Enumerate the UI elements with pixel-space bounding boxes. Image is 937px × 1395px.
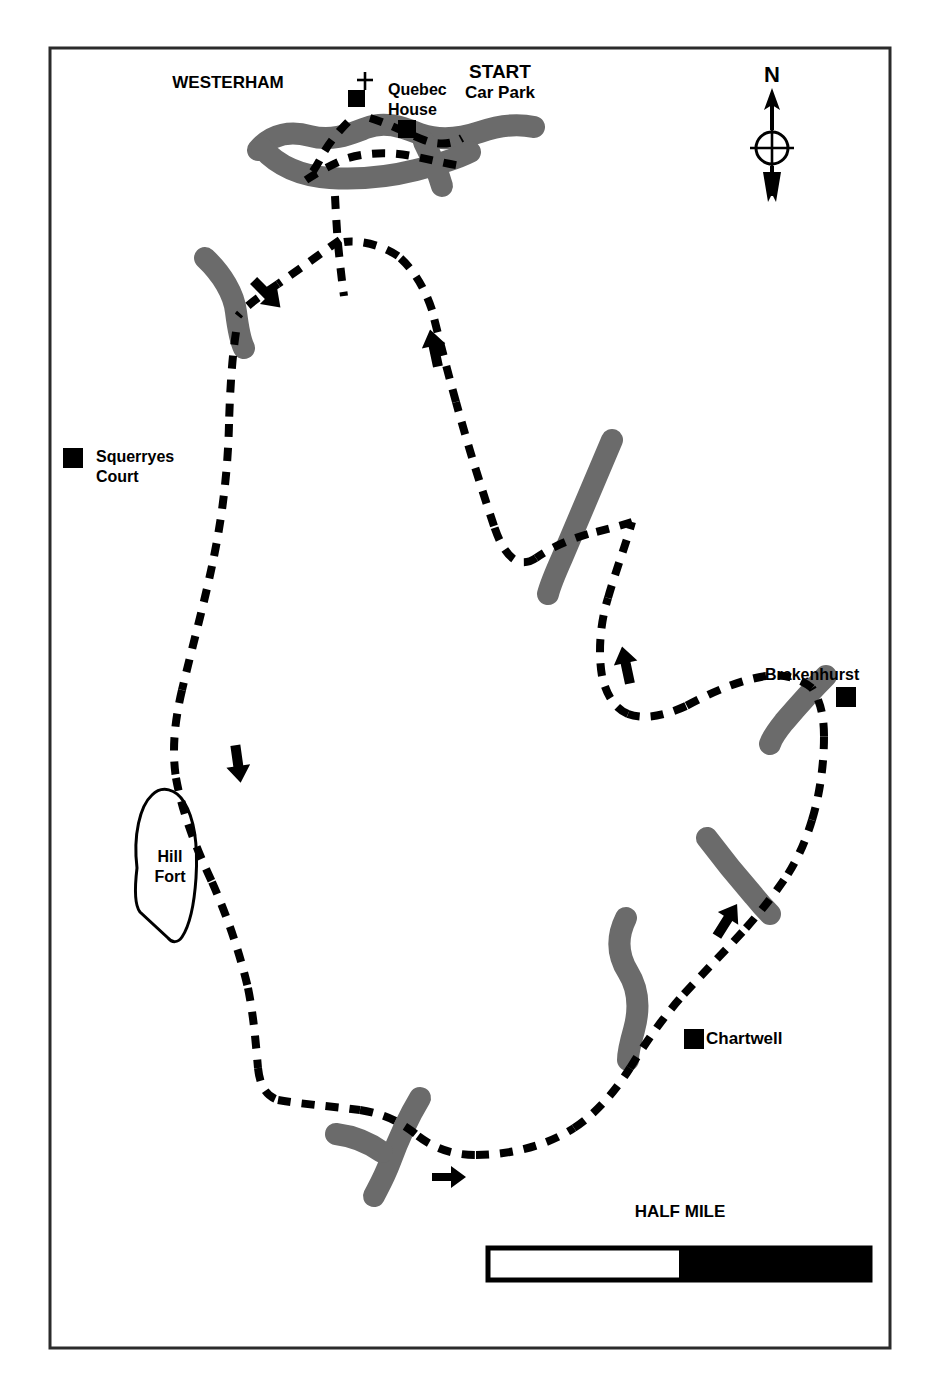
label-quebec: Quebec: [388, 81, 447, 98]
label-chartwell: Chartwell: [706, 1029, 783, 1048]
label-court: Court: [96, 468, 139, 485]
map-canvas: N HALF MILE WESTERHAM START Car Park Que…: [0, 0, 937, 1395]
map-page: WALKS ROUND AND ABOUT KENT: [0, 0, 937, 1395]
westerham-village-marker[interactable]: [398, 120, 416, 138]
scale-bar-label: HALF MILE: [635, 1202, 726, 1221]
label-brakenhurst: Brakenhurst: [765, 666, 860, 683]
squerryes-court-marker[interactable]: [63, 448, 83, 468]
label-fort: Fort: [154, 868, 186, 885]
label-hill: Hill: [158, 848, 183, 865]
label-squerryes: Squerryes: [96, 448, 174, 465]
label-westerham: WESTERHAM: [172, 73, 283, 92]
compass-north-label: N: [764, 62, 780, 87]
brakenhurst-marker[interactable]: [836, 687, 856, 707]
label-start: START: [469, 61, 531, 82]
chartwell-marker[interactable]: [684, 1029, 704, 1049]
label-house: House: [388, 101, 437, 118]
scale-bar-filled-half: [679, 1248, 870, 1280]
quebec-house-marker[interactable]: [348, 90, 365, 107]
label-car-park: Car Park: [465, 83, 535, 102]
